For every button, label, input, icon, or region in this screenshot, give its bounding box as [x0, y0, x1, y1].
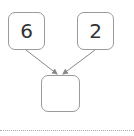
part-value-left: 6 — [20, 19, 33, 43]
arrow-right-to-bottom — [63, 50, 95, 74]
part-box-left[interactable]: 6 — [8, 12, 45, 50]
part-value-right: 2 — [89, 19, 102, 43]
dotted-divider — [0, 130, 134, 131]
arrow-left-to-bottom — [26, 50, 57, 74]
part-box-right[interactable]: 2 — [77, 12, 114, 50]
whole-box[interactable] — [41, 75, 80, 112]
